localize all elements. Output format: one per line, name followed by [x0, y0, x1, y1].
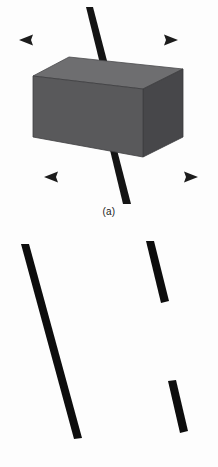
- segment-lower-right: [168, 380, 188, 433]
- panel-a-drawing: [0, 0, 218, 228]
- panel-a-caption: (a): [0, 206, 218, 217]
- arrow-bottom-right: [132, 172, 198, 183]
- rectangular-block: [33, 57, 183, 157]
- arrow-top-right: [112, 35, 178, 46]
- block-front-face: [33, 76, 143, 157]
- panel-b-stage: [0, 228, 218, 467]
- panel-a: (a): [0, 0, 218, 228]
- arrow-top-left: [19, 35, 85, 46]
- segment-upper-right: [146, 241, 169, 303]
- figure-container: (a) (b): [0, 0, 218, 467]
- rod-lower-segment: [109, 146, 131, 204]
- arrow-bottom-left: [44, 172, 110, 183]
- panel-b: (b): [0, 228, 218, 467]
- segment-long-left: [21, 244, 82, 439]
- panel-a-stage: [0, 0, 218, 228]
- panel-b-drawing: [0, 228, 218, 467]
